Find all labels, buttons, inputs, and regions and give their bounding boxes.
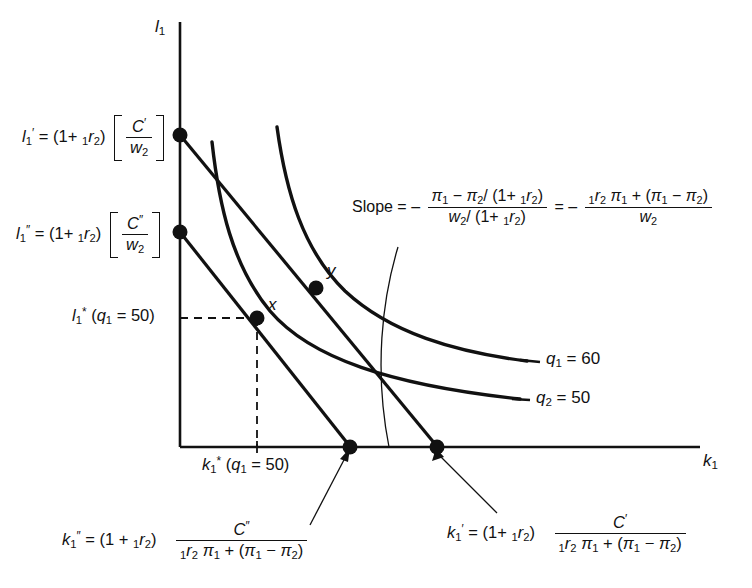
curve-label-q1: q1 = 60 <box>546 350 600 369</box>
leader-line-k-prime <box>440 456 497 513</box>
connector-q2-label <box>512 399 530 400</box>
point-dot-y <box>309 281 324 296</box>
slope-fraction-first: π1 − π2/ (1+ 1r2) w2/ (1+ 1r2) <box>425 188 550 228</box>
bracket-group-c-prime-over-w2: C′ w2 <box>114 115 164 161</box>
slope-prefix: Slope = – <box>352 198 420 215</box>
isoquant-curve-q1 <box>277 127 527 361</box>
figure-container: l1 k1 l1′ = (1+ 1r2) C′ w2 l1″ = (1+ 1r2… <box>0 0 752 588</box>
point-dot-k1-prime <box>430 440 445 455</box>
x-intercept-label-k1-double-prime: k1″ = (1 + 1r2) C″ 1r2 π1 + (π1 − π2) <box>62 520 310 562</box>
leader-line-k-double-prime <box>310 456 346 525</box>
y-intercept-label-l1-prime: l1′ = (1+ 1r2) C′ w2 <box>22 115 164 161</box>
x-intercept-label-k1-prime: k1′ = (1+ 1r2) C′ 1r2 π1 + (π1 − π2) <box>447 513 689 555</box>
point-dot-x <box>250 311 265 326</box>
slope-equals-middle: = – <box>554 198 577 215</box>
slope-fraction-second: 1r2 π1 + (π1 − π2) w2 <box>582 188 715 228</box>
point-dot-k1-double-prime <box>343 440 358 455</box>
fraction-k1-double-prime: C″ 1r2 π1 + (π1 − π2) <box>173 520 310 562</box>
x-tick-label-k1-star: k1* (q1 = 50) <box>202 455 289 476</box>
bracket-group-c-double-prime-over-w2: C″ w2 <box>110 212 160 258</box>
slope-leader-line <box>381 247 398 447</box>
diagram-canvas <box>0 0 752 588</box>
point-label-x: x <box>268 296 277 314</box>
y-intercept-label-l1-double-prime: l1″ = (1+ 1r2) C″ w2 <box>16 212 160 258</box>
fraction-k1-prime: C′ 1r2 π1 + (π1 − π2) <box>552 513 689 555</box>
y-axis-label: l1 <box>155 18 165 37</box>
point-label-y: y <box>327 262 336 280</box>
slope-annotation: Slope = – π1 − π2/ (1+ 1r2) w2/ (1+ 1r2)… <box>352 188 715 228</box>
point-dot-l1-double-prime <box>173 225 188 240</box>
y-tick-label-l1-star: l1* (q1 = 50) <box>72 306 155 327</box>
point-dot-l1-prime <box>173 128 188 143</box>
curve-label-q2: q2 = 50 <box>536 389 590 408</box>
x-axis-label: k1 <box>703 452 718 471</box>
